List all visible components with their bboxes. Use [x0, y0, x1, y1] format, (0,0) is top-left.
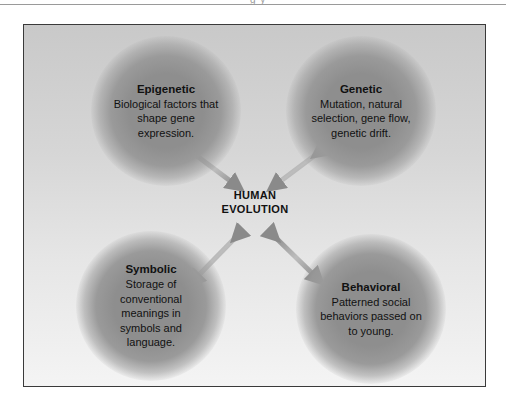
node-title: Genetic: [340, 82, 382, 97]
diagram-frame: Epigenetic Biological factors that shape…: [23, 24, 486, 387]
node-description: Biological factors that shape gene expre…: [111, 97, 221, 141]
center-label-line1: HUMAN: [200, 188, 310, 202]
node-title: Epigenetic: [137, 82, 195, 97]
node-epigenetic: Epigenetic Biological factors that shape…: [91, 36, 241, 186]
node-description: Storage of conventional meanings in symb…: [101, 277, 201, 350]
center-label-line2: EVOLUTION: [200, 202, 310, 216]
node-symbolic: Symbolic Storage of conventional meaning…: [76, 231, 226, 381]
center-label: HUMAN EVOLUTION: [200, 188, 310, 216]
node-behavioral: Behavioral Patterned social behaviors pa…: [296, 234, 446, 384]
node-title: Behavioral: [342, 280, 401, 295]
node-title: Symbolic: [125, 262, 176, 277]
node-description: Patterned social behaviors passed on to …: [319, 295, 423, 339]
page: g y: [0, 0, 506, 408]
node-description: Mutation, natural selection, gene flow, …: [302, 97, 420, 141]
header-clipped-text: g y: [250, 0, 266, 5]
node-genetic: Genetic Mutation, natural selection, gen…: [286, 36, 436, 186]
